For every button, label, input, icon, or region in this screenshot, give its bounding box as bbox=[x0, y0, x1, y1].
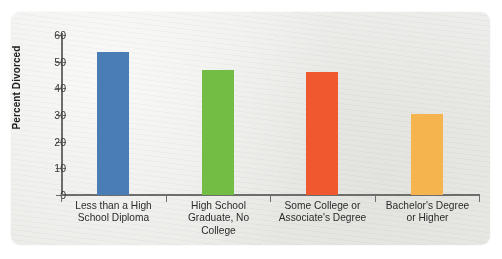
category-label-line: College bbox=[166, 225, 271, 237]
y-tick-label: 20 bbox=[42, 137, 66, 148]
category-label-line: Bachelor's Degree bbox=[375, 200, 480, 212]
y-tick-label: 40 bbox=[42, 83, 66, 94]
y-tick-label-wrap: 10 bbox=[24, 163, 66, 164]
y-tick-label-wrap: 0 bbox=[24, 190, 66, 191]
y-tick-label-wrap: 30 bbox=[24, 110, 66, 111]
category-label-line: Graduate, No bbox=[166, 212, 271, 224]
bar-1 bbox=[202, 70, 234, 195]
category-label-line: School Diploma bbox=[61, 212, 166, 224]
category-label-line: Less than a High bbox=[61, 200, 166, 212]
y-tick-label-wrap: 40 bbox=[24, 83, 66, 84]
y-tick-label: 50 bbox=[42, 57, 66, 68]
category-label-3: Bachelor's Degreeor Higher bbox=[375, 200, 480, 225]
y-tick-label: 60 bbox=[42, 30, 66, 41]
y-tick-label-wrap: 60 bbox=[24, 30, 66, 31]
y-tick-label: 10 bbox=[42, 163, 66, 174]
divorce-rate-bar-chart: Percent Divorced 0102030405060 Less than… bbox=[0, 0, 502, 259]
y-tick-label-wrap: 20 bbox=[24, 137, 66, 138]
bar-3 bbox=[411, 114, 443, 195]
category-label-line: Associate's Degree bbox=[270, 212, 375, 224]
y-tick-label: 0 bbox=[42, 190, 66, 201]
category-label-line: High School bbox=[166, 200, 271, 212]
bar-2 bbox=[306, 72, 338, 195]
bar-0 bbox=[97, 52, 129, 195]
plot-area: Percent Divorced 0102030405060 Less than… bbox=[0, 0, 502, 259]
category-label-0: Less than a HighSchool Diploma bbox=[61, 200, 166, 225]
y-tick-label-wrap: 50 bbox=[24, 57, 66, 58]
category-label-1: High SchoolGraduate, NoCollege bbox=[166, 200, 271, 237]
y-axis-title: Percent Divorced bbox=[11, 28, 22, 148]
y-tick-label: 30 bbox=[42, 110, 66, 121]
category-label-line: Some College or bbox=[270, 200, 375, 212]
category-label-line: or Higher bbox=[375, 212, 480, 224]
category-label-2: Some College orAssociate's Degree bbox=[270, 200, 375, 225]
